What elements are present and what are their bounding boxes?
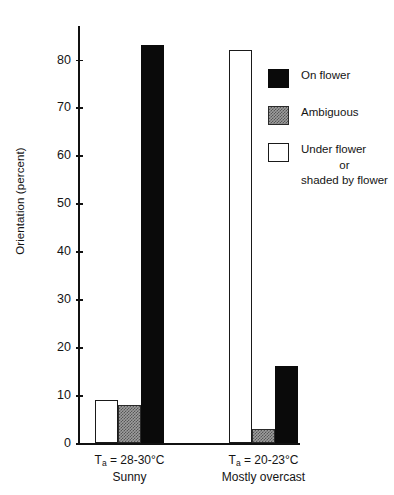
bar-group1-black: [141, 45, 164, 443]
y-tick-label-70: 70: [57, 101, 71, 114]
y-tick-label-50: 50: [57, 197, 71, 210]
y-tick-0: [76, 443, 83, 445]
legend-label-3: Under flowerorshaded by flower: [301, 142, 388, 189]
y-tick-40: [76, 251, 83, 253]
category-temp-label-1: Ta = 28-30°C: [95, 453, 165, 467]
legend-label-line: or: [301, 158, 388, 174]
legend-label-line: On flower: [301, 68, 350, 84]
y-tick-60: [76, 155, 83, 157]
y-tick-10: [76, 395, 83, 397]
y-tick-label-60: 60: [57, 149, 71, 162]
bar-group1-gray: [118, 405, 141, 443]
y-tick-label-40: 40: [57, 245, 71, 258]
bar-group2-black: [275, 366, 298, 443]
legend-label-2: Ambiguous: [301, 105, 359, 121]
bar-group2-white: [229, 50, 252, 443]
y-tick-50: [76, 203, 83, 205]
y-tick-30: [76, 299, 83, 301]
y-tick-label-80: 80: [57, 53, 71, 66]
y-axis-label: Orientation (percent): [14, 121, 26, 281]
legend-swatch-gray: [268, 106, 289, 125]
bar-group2-gray: [252, 429, 275, 443]
plot-area: 01020304050607080: [78, 26, 300, 445]
category-caption-2: Ta = 20-23°CMostly overcast: [184, 452, 344, 487]
legend-label-line: Under flower: [301, 142, 388, 158]
chart-legend: On flowerAmbiguousUnder flowerorshaded b…: [268, 68, 394, 206]
legend-row-1: On flower: [268, 68, 394, 88]
legend-row-2: Ambiguous: [268, 105, 394, 125]
legend-label-1: On flower: [301, 68, 350, 84]
y-tick-20: [76, 347, 83, 349]
category-condition-label-2: Mostly overcast: [184, 469, 344, 486]
y-tick-label-20: 20: [57, 341, 71, 354]
legend-label-line: shaded by flower: [301, 173, 388, 189]
legend-label-line: Ambiguous: [301, 105, 359, 121]
legend-swatch-white: [268, 143, 289, 162]
y-tick-70: [76, 107, 83, 109]
legend-row-3: Under flowerorshaded by flower: [268, 142, 394, 189]
y-tick-label-30: 30: [57, 293, 71, 306]
x-axis-line: [78, 443, 300, 445]
y-tick-label-0: 0: [64, 437, 71, 450]
bar-group1-white: [95, 400, 118, 443]
y-tick-label-10: 10: [57, 389, 71, 402]
bar-chart-figure: Orientation (percent) 01020304050607080 …: [0, 0, 394, 495]
y-axis-line: [78, 26, 80, 445]
legend-swatch-black: [268, 69, 289, 88]
y-tick-80: [76, 60, 83, 62]
category-temp-label-2: Ta = 20-23°C: [229, 453, 299, 467]
